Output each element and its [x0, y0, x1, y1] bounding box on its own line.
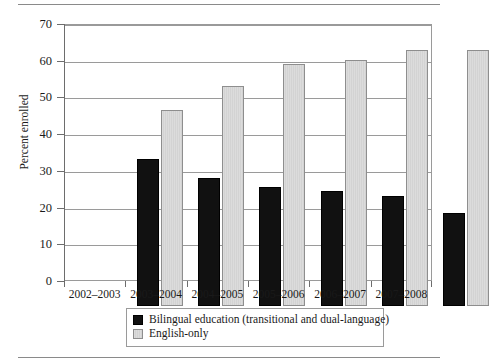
y-axis-tick-label: 40 — [12, 128, 52, 141]
x-axis-tick-label: 2003–2004 — [121, 288, 191, 301]
black-square-swatch-icon — [133, 315, 143, 325]
y-axis-tick — [57, 281, 64, 282]
bar-english-only — [345, 60, 367, 306]
legend-label-english-only: English-only — [149, 328, 208, 340]
legend: Bilingual education (transitional and du… — [126, 308, 384, 347]
x-axis-tick — [431, 281, 432, 287]
y-axis-tick — [57, 171, 64, 172]
x-axis-tick — [64, 281, 65, 287]
x-axis-tick-label: 2002–2003 — [60, 288, 130, 301]
y-axis-tick-label: 60 — [12, 55, 52, 68]
x-axis: 2002–20032003–20042004–20052005–20062006… — [64, 281, 432, 307]
x-axis-tick — [125, 281, 126, 287]
y-axis-tick — [57, 97, 64, 98]
y-axis-tick-label: 0 — [12, 275, 52, 288]
bar-english-only — [283, 64, 305, 306]
bar-bilingual — [443, 213, 465, 306]
x-axis-tick — [371, 281, 372, 287]
bar-english-only — [467, 50, 489, 306]
y-axis-tick-label: 30 — [12, 165, 52, 178]
y-axis-tick — [57, 61, 64, 62]
legend-label-bilingual: Bilingual education (transitional and du… — [149, 314, 389, 326]
y-axis-tick-label: 50 — [12, 91, 52, 104]
top-rule — [18, 4, 440, 5]
x-axis-tick-label: 2005–2006 — [244, 288, 314, 301]
y-axis-spine — [64, 24, 65, 282]
y-axis-tick-label: 70 — [12, 18, 52, 31]
bar-group — [129, 49, 493, 306]
y-axis-tick — [57, 208, 64, 209]
y-axis-tick-label: 20 — [12, 202, 52, 215]
bar-english-only — [222, 86, 244, 306]
legend-item-bilingual: Bilingual education (transitional and du… — [133, 313, 377, 327]
x-axis-tick — [309, 281, 310, 287]
legend-item-english-only: English-only — [133, 327, 377, 341]
bar-english-only — [161, 110, 183, 306]
y-axis-tick-label: 10 — [12, 238, 52, 251]
x-axis-tick — [248, 281, 249, 287]
gray-square-swatch-icon — [133, 329, 143, 339]
x-axis-tick — [187, 281, 188, 287]
x-axis-tick-label: 2007–2008 — [366, 288, 436, 301]
y-axis-tick — [57, 24, 64, 25]
bar-english-only — [406, 50, 428, 306]
plot-area — [64, 24, 432, 281]
y-axis-tick — [57, 244, 64, 245]
bottom-rule — [18, 357, 440, 358]
x-axis-tick-label: 2006–2007 — [305, 288, 375, 301]
y-axis-tick — [57, 134, 64, 135]
gridline — [65, 25, 431, 26]
x-axis-tick-label: 2004–2005 — [182, 288, 252, 301]
